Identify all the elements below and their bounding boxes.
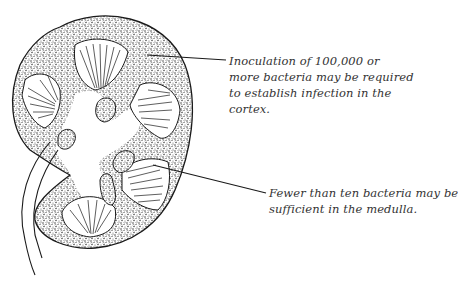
annotation-cortex: Inoculation of 100,000 or more bacteria … bbox=[229, 53, 414, 117]
annotation-line: Fewer than ten bacteria may be bbox=[269, 185, 458, 201]
annotation-line: sufficient in the medulla. bbox=[269, 201, 458, 217]
annotation-medulla: Fewer than ten bacteria may be sufficien… bbox=[269, 185, 458, 217]
annotation-line: to establish infection in the bbox=[229, 85, 414, 101]
annotation-line: more bacteria may be required bbox=[229, 69, 414, 85]
annotation-line: cortex. bbox=[229, 101, 414, 117]
annotation-line: Inoculation of 100,000 or bbox=[229, 53, 414, 69]
